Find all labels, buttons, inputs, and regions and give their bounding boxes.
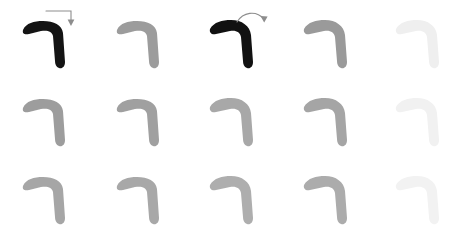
stroke-glyph-r1c5 <box>390 12 452 74</box>
stroke-practice-sheet <box>0 0 459 233</box>
stroke-path <box>396 20 439 68</box>
stroke-path <box>304 20 347 68</box>
stroke-glyph-r2c4 <box>298 90 360 152</box>
stroke-glyph-r2c5 <box>390 90 452 152</box>
stroke-path <box>396 98 439 146</box>
stroke-path <box>210 176 253 224</box>
stroke-glyph-r3c5 <box>390 168 452 230</box>
stroke-glyph-r1c4 <box>298 12 360 74</box>
stroke-path <box>210 20 253 68</box>
stroke-glyph-r1c3 <box>204 12 266 74</box>
stroke-path <box>304 176 347 224</box>
stroke-glyph-r3c1 <box>18 168 80 230</box>
stroke-path <box>117 177 159 224</box>
stroke-path <box>396 176 439 224</box>
stroke-glyph-r3c3 <box>204 168 266 230</box>
stroke-glyph-r2c3 <box>204 90 266 152</box>
stroke-glyph-r1c1 <box>18 12 80 74</box>
stroke-path <box>304 98 347 146</box>
stroke-path <box>117 99 159 146</box>
stroke-glyph-r1c2 <box>112 12 174 74</box>
stroke-glyph-r2c1 <box>18 90 80 152</box>
stroke-path <box>23 21 65 68</box>
stroke-path <box>117 21 159 68</box>
stroke-glyph-r3c2 <box>112 168 174 230</box>
stroke-path <box>23 177 65 224</box>
stroke-path <box>210 98 253 146</box>
stroke-glyph-r3c4 <box>298 168 360 230</box>
stroke-glyph-r2c2 <box>112 90 174 152</box>
stroke-path <box>23 99 65 146</box>
